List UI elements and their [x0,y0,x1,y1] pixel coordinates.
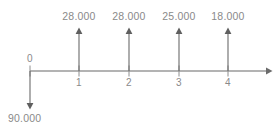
inflow-label-4: 18.000 [211,10,244,22]
outflow-label-0: 90.000 [8,112,41,124]
time-axis-arrow-icon [266,67,273,74]
cash-flow-diagram: 0 28.000 28.000 25.000 18.000 1 2 3 4 90… [0,0,274,127]
inflow-label-3: 25.000 [162,10,195,22]
tick-label-4: 4 [225,77,231,88]
tick-label-1: 1 [76,77,82,88]
outflow-arrowhead-icon-0 [27,103,34,110]
inflow-arrowhead-icon-4 [225,28,232,35]
tick-label-3: 3 [176,77,182,88]
timeline-canvas: 0 28.000 28.000 25.000 18.000 1 2 3 4 90… [0,0,274,127]
inflow-label-1: 28.000 [62,10,95,22]
inflow-arrowhead-icon-3 [176,28,183,35]
inflow-label-2: 28.000 [112,10,145,22]
inflow-arrowhead-icon-1 [76,28,83,35]
origin-label: 0 [27,53,33,64]
tick-label-2: 2 [126,77,132,88]
inflow-arrowhead-icon-2 [126,28,133,35]
